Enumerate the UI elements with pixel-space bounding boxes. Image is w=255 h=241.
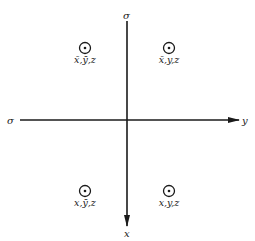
point-upper-left: x̄,ȳ,z — [74, 43, 97, 66]
center-dot — [84, 47, 87, 50]
horizontal-axis-right-label: y — [241, 115, 248, 126]
point-label: x̄,y,z — [159, 54, 181, 65]
point-upper-right: x̄,y,z — [159, 43, 181, 66]
horizontal-axis-left-label: σ — [7, 115, 15, 126]
center-dot — [168, 190, 171, 193]
vertical-axis-top-label: σ — [123, 10, 131, 21]
point-label: x̄,ȳ,z — [74, 54, 97, 65]
point-lower-left: x,ȳ,z — [74, 186, 97, 209]
vertical-axis-bottom-label: x — [124, 228, 130, 239]
diagram-svg: σ y σ x x̄,ȳ,z x̄,y,z x,ȳ,z — [0, 0, 255, 241]
vertical-axis: σ x — [123, 10, 131, 239]
center-dot — [168, 47, 171, 50]
diagram-canvas: σ y σ x x̄,ȳ,z x̄,y,z x,ȳ,z — [0, 0, 255, 241]
point-label: x,y,z — [159, 197, 181, 208]
center-dot — [84, 190, 87, 193]
point-lower-right: x,y,z — [159, 186, 181, 209]
point-label: x,ȳ,z — [74, 197, 97, 208]
